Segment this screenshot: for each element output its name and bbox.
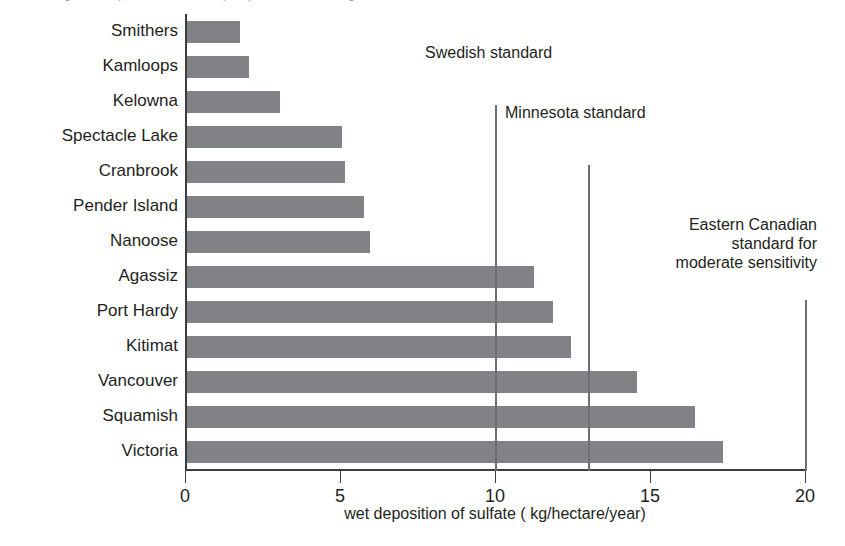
bar — [187, 21, 240, 43]
category-label: Cranbrook — [0, 161, 178, 181]
category-label: Port Hardy — [0, 301, 178, 321]
x-axis-tick — [340, 471, 341, 483]
reference-line-label: Eastern Canadianstandard formoderate sen… — [627, 215, 817, 272]
x-axis-title: wet deposition of sulfate ( kg/hectare/y… — [185, 505, 805, 523]
bar — [187, 266, 534, 288]
x-axis-tick-label: 0 — [180, 486, 190, 507]
bar — [187, 406, 695, 428]
x-axis-tick-label: 15 — [640, 486, 660, 507]
category-label: Pender Island — [0, 196, 178, 216]
bar — [187, 231, 370, 253]
category-label: Kelowna — [0, 91, 178, 111]
bar — [187, 126, 342, 148]
bar — [187, 441, 723, 463]
category-label: Agassiz — [0, 266, 178, 286]
category-label: Spectacle Lake — [0, 126, 178, 146]
category-label: Victoria — [0, 441, 178, 461]
x-axis-tick — [495, 471, 496, 483]
chart-screenshot: Figure 3. Deposition of sulfate in preci… — [0, 0, 845, 546]
bar — [187, 91, 280, 113]
bar — [187, 56, 249, 78]
category-label: Kamloops — [0, 56, 178, 76]
x-axis-tick — [650, 471, 651, 483]
category-label: Smithers — [0, 21, 178, 41]
bar — [187, 196, 364, 218]
reference-line — [805, 300, 807, 471]
reference-line-label: Minnesota standard — [505, 103, 646, 122]
figure-caption: Figure 3. Deposition of sulfate in preci… — [55, 0, 475, 3]
x-axis-tick-label: 5 — [335, 486, 345, 507]
category-axis-labels: SmithersKamloopsKelownaSpectacle LakeCra… — [0, 14, 178, 469]
reference-line — [588, 165, 590, 471]
x-axis-tick-label: 20 — [795, 486, 815, 507]
bar — [187, 161, 345, 183]
reference-line-label: Swedish standard — [425, 43, 552, 62]
bar — [187, 336, 571, 358]
category-label: Vancouver — [0, 371, 178, 391]
reference-line — [495, 105, 497, 471]
x-axis-tick-label: 10 — [485, 486, 505, 507]
x-axis-tick — [185, 471, 186, 483]
category-label: Kitimat — [0, 336, 178, 356]
category-label: Squamish — [0, 406, 178, 426]
x-axis-tick — [805, 471, 806, 483]
bar — [187, 371, 637, 393]
bar — [187, 301, 553, 323]
category-label: Nanoose — [0, 231, 178, 251]
